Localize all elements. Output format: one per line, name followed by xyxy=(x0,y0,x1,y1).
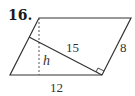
label-8: 8 xyxy=(120,40,127,55)
problem-number: 16. xyxy=(8,7,32,23)
right-angle-marker xyxy=(96,68,104,72)
label-12: 12 xyxy=(50,80,63,95)
label-h: h xyxy=(43,53,50,68)
parallelogram-figure: 16. 15 8 h 12 xyxy=(0,0,135,96)
label-15: 15 xyxy=(66,40,79,55)
